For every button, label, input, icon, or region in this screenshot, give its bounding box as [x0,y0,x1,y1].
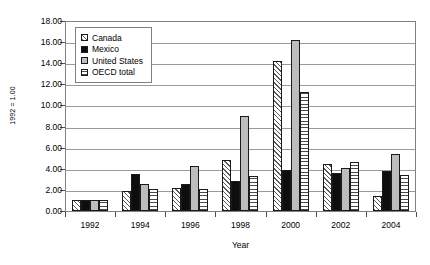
x-tick-label: 2002 [316,220,366,230]
legend-label: OECD total [92,67,135,77]
y-tick-label: 4.00 [14,164,62,174]
x-tick-label: 1994 [115,220,165,230]
y-tick-label: 6.00 [14,143,62,153]
x-tick-label: 1996 [165,220,215,230]
bar-canada [273,61,282,211]
bar-united-states [291,40,300,211]
legend-label: Canada [92,33,122,43]
bar-mexico [282,170,291,211]
bar-oecd-total [149,189,158,211]
x-tick-mark [316,212,317,217]
y-tick-label: 2.00 [14,185,62,195]
y-tick-label: 8.00 [14,122,62,132]
legend-item-united-states: United States [81,55,143,67]
bar-group [165,21,215,211]
bar-oecd-total [300,92,309,211]
bar-mexico [231,181,240,211]
bar-canada [373,196,382,211]
legend-swatch-icon [81,34,88,41]
bar-mexico [382,171,391,211]
bar-mexico [131,174,140,211]
x-tick-mark [366,212,367,217]
bar-group [366,21,416,211]
y-tick-label: 16.00 [14,37,62,47]
legend-swatch-icon [81,69,88,76]
legend-item-oecd-total: OECD total [81,67,143,79]
x-axis-ticks [65,212,416,220]
legend-label: Mexico [92,44,119,54]
bar-oecd-total [400,175,409,211]
bar-oecd-total [99,200,108,211]
x-tick-label: 2000 [266,220,316,230]
legend-label: United States [92,56,143,66]
x-tick-label: 1992 [65,220,115,230]
x-axis-labels: 1992199419961998200020022004 [65,220,416,230]
bar-oecd-total [249,176,258,211]
bar-canada [323,164,332,212]
y-tick-label: 12.00 [14,79,62,89]
bar-mexico [81,200,90,211]
bar-group [215,21,265,211]
legend-item-mexico: Mexico [81,44,143,56]
x-tick-mark [65,212,66,217]
bar-group [266,21,316,211]
bar-canada [122,191,131,211]
x-tick-mark [215,212,216,217]
y-tick-label: 0.00 [14,206,62,216]
bar-canada [72,200,81,211]
bar-united-states [391,154,400,211]
bar-canada [172,188,181,211]
legend-item-canada: Canada [81,32,143,44]
y-tick-label: 10.00 [14,100,62,110]
x-tick-mark [115,212,116,217]
bar-chart: 1992 = 1.00 0.002.004.006.008.0010.0012.… [0,0,430,265]
bar-united-states [240,116,249,211]
bar-united-states [140,184,149,211]
bar-united-states [341,168,350,211]
x-tick-mark [416,212,417,217]
bar-canada [222,160,231,211]
bar-united-states [90,200,99,211]
x-axis-title: Year [65,240,416,250]
x-tick-label: 2004 [366,220,416,230]
x-tick-label: 1998 [215,220,265,230]
bar-oecd-total [350,162,359,211]
x-tick-mark [266,212,267,217]
bar-oecd-total [199,189,208,211]
bar-united-states [190,166,199,211]
x-tick-mark [165,212,166,217]
legend-swatch-icon [81,57,88,64]
bar-mexico [332,173,341,211]
y-tick-label: 14.00 [14,58,62,68]
y-tick-label: 18.00 [14,16,62,26]
legend: CanadaMexicoUnited StatesOECD total [75,27,152,83]
bar-mexico [181,184,190,211]
legend-swatch-icon [81,46,88,53]
bar-group [316,21,366,211]
